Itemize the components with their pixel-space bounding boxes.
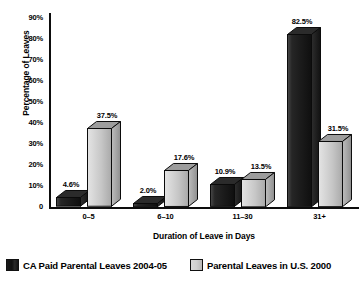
legend-item-ca-paid: CA Paid Parental Leaves 2004-05	[6, 259, 167, 271]
x-tick-label: 6–10	[127, 212, 204, 221]
legend-item-us-2000: Parental Leaves in U.S. 2000	[190, 259, 331, 271]
legend-swatch-dark-icon	[6, 259, 19, 271]
value-label-light-3: 31.5%	[321, 124, 355, 133]
x-tick-label: 31+	[281, 212, 358, 221]
legend-label-us-2000: Parental Leaves in U.S. 2000	[207, 260, 331, 271]
bar-chart: Percentage of Leaves 010%20%30%40%50%60%…	[0, 0, 363, 282]
bar-light-1	[164, 163, 198, 207]
bar-dark-3	[287, 27, 321, 207]
bar-light-0	[87, 121, 121, 207]
value-label-light-2: 13.5%	[244, 162, 278, 171]
legend-swatch-light-icon	[190, 259, 203, 271]
value-label-light-1: 17.6%	[167, 153, 201, 162]
value-label-dark-2: 10.9%	[208, 167, 242, 176]
value-label-dark-0: 4.6%	[54, 180, 88, 189]
legend-label-ca-paid: CA Paid Parental Leaves 2004-05	[23, 260, 167, 271]
value-label-dark-3: 82.5%	[285, 17, 319, 26]
bar-light-3	[318, 134, 352, 207]
chart-legend: CA Paid Parental Leaves 2004-05 Parental…	[0, 258, 363, 280]
bar-dark-2	[210, 177, 244, 207]
x-tick-label: 11–30	[204, 212, 281, 221]
bar-light-2	[241, 172, 275, 207]
value-label-dark-1: 2.0%	[131, 186, 165, 195]
bar-dark-0	[56, 190, 90, 207]
x-tick-label: 0–5	[50, 212, 127, 221]
value-label-light-0: 37.5%	[90, 111, 124, 120]
bar-dark-1	[133, 196, 167, 207]
x-axis-title: Duration of Leave in Days	[49, 231, 359, 241]
